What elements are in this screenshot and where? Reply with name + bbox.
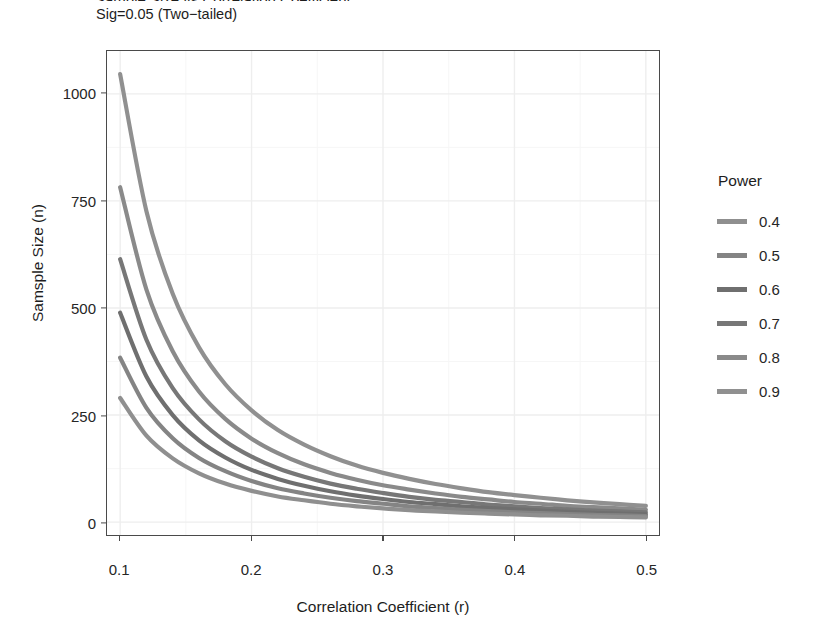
y-tick-label-0: 0 xyxy=(32,515,96,532)
legend-title: Power xyxy=(718,172,808,190)
legend-item-0.8[interactable]: 0.8 xyxy=(712,340,808,374)
y-axis-tick-marks xyxy=(96,50,106,536)
legend-item-0.7[interactable]: 0.7 xyxy=(712,306,808,340)
legend-item-0.4[interactable]: 0.4 xyxy=(712,204,808,238)
legend-item-0.9[interactable]: 0.9 xyxy=(712,374,808,408)
legend-label: 0.4 xyxy=(759,213,780,230)
y-axis-title: Samsple Size (n) xyxy=(29,103,47,423)
chart-subtitle: Sig=0.05 (Two−tailed) xyxy=(96,6,237,22)
legend-key-swatch xyxy=(717,219,747,224)
page-title: Sample Size vs Correlation Coefficient xyxy=(95,0,351,1)
legend: Power 0.40.50.60.70.80.9 xyxy=(712,172,808,408)
legend-label: 0.8 xyxy=(759,349,780,366)
x-tick-mark xyxy=(119,536,120,541)
grid-major xyxy=(107,51,659,535)
x-tick-label-0.4: 0.4 xyxy=(480,561,550,578)
y-tick-mark xyxy=(101,415,106,416)
legend-items: 0.40.50.60.70.80.9 xyxy=(712,204,808,408)
y-tick-mark xyxy=(101,200,106,201)
legend-key-swatch xyxy=(717,321,747,326)
x-tick-mark xyxy=(646,536,647,541)
legend-key-swatch xyxy=(717,355,747,360)
y-tick-mark xyxy=(101,307,106,308)
y-tick-mark xyxy=(101,92,106,93)
chart-figure: Sample Size vs Correlation Coefficient S… xyxy=(0,0,814,639)
legend-key-swatch xyxy=(717,389,747,394)
x-axis-tick-marks xyxy=(106,536,660,546)
legend-label: 0.7 xyxy=(759,315,780,332)
x-axis-title: Correlation Coefficient (r) xyxy=(106,598,660,616)
x-tick-mark xyxy=(251,536,252,541)
y-tick-mark xyxy=(101,523,106,524)
x-tick-label-0.2: 0.2 xyxy=(216,561,286,578)
legend-item-0.5[interactable]: 0.5 xyxy=(712,238,808,272)
x-tick-label-0.3: 0.3 xyxy=(348,561,418,578)
x-tick-label-0.5: 0.5 xyxy=(612,561,682,578)
y-tick-label-1000: 1000 xyxy=(32,85,96,102)
legend-label: 0.6 xyxy=(759,281,780,298)
legend-key-swatch xyxy=(717,287,747,292)
x-axis-tick-labels: 0.10.20.30.40.5 xyxy=(106,561,660,585)
plot-panel xyxy=(106,50,660,536)
legend-item-0.6[interactable]: 0.6 xyxy=(712,272,808,306)
x-tick-mark xyxy=(514,536,515,541)
plot-canvas xyxy=(107,51,659,535)
legend-label: 0.9 xyxy=(759,383,780,400)
legend-key-swatch xyxy=(717,253,747,258)
legend-label: 0.5 xyxy=(759,247,780,264)
x-tick-mark xyxy=(382,536,383,541)
x-tick-label-0.1: 0.1 xyxy=(84,561,154,578)
